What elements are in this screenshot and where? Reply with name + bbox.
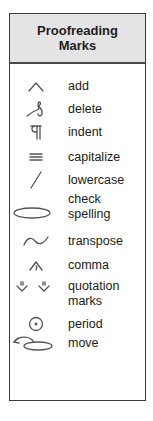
mark-label-line1: quotation (68, 279, 119, 293)
mark-label: add (68, 79, 89, 93)
proofreading-marks-card: Proofreading Marks add delete indent (9, 13, 146, 401)
mark-label: indent (68, 125, 102, 139)
mark-row-indent: indent (10, 122, 145, 142)
triple-underline-icon (16, 151, 56, 163)
mark-row-period: period (10, 314, 145, 334)
mark-label: comma (68, 258, 109, 272)
header-title-line2: Marks (59, 38, 97, 53)
slash-icon (16, 170, 56, 190)
caret-icon (16, 79, 56, 93)
ellipse-icon (12, 206, 52, 220)
mark-row-capitalize: capitalize (10, 147, 145, 167)
mark-row-add: add (10, 76, 145, 96)
quote-caret-icon (14, 279, 54, 293)
mark-row-move: move (10, 332, 145, 354)
move-arrow-icon (10, 334, 60, 352)
mark-row-transpose: transpose (10, 230, 145, 252)
mark-row-comma: comma (10, 255, 145, 275)
tilde-icon (16, 234, 56, 248)
mark-label: delete (68, 102, 102, 116)
mark-row-check-spelling: check spelling (10, 192, 145, 224)
mark-row-delete: delete (10, 99, 145, 119)
circled-dot-icon (16, 315, 56, 333)
mark-label-line2: spelling (68, 207, 110, 221)
mark-label: transpose (68, 234, 123, 248)
card-header: Proofreading Marks (10, 14, 145, 64)
comma-caret-icon (16, 257, 56, 273)
delete-loop-icon (16, 99, 56, 119)
mark-label: capitalize (68, 150, 120, 164)
paragraph-icon (16, 123, 56, 141)
mark-label: period (68, 317, 103, 331)
mark-label: lowercase (68, 173, 124, 187)
mark-label-line2: marks (68, 294, 102, 308)
mark-label-line1: check (68, 192, 101, 206)
header-title-line1: Proofreading (37, 23, 118, 38)
mark-label: move (68, 336, 99, 350)
mark-row-lowercase: lowercase (10, 169, 145, 191)
mark-row-quotation-marks: quotation marks (10, 279, 145, 311)
